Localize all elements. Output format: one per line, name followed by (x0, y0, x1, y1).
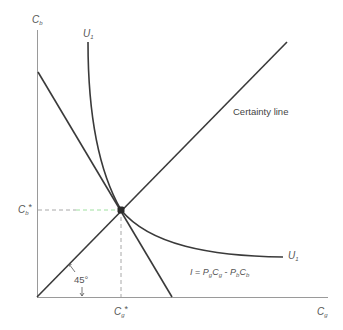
angle-label: 45° (74, 275, 88, 285)
certainty-line (37, 42, 287, 297)
budget-line (38, 72, 172, 297)
y-axis-label: Cb (32, 15, 43, 26)
indifference-curve-u1 (88, 42, 283, 257)
diagram-canvas (0, 0, 343, 330)
angle-arrow-upper (69, 264, 75, 272)
equilibrium-point (118, 207, 125, 214)
budget-equation: I = PgCg - PbCb (190, 268, 249, 278)
certainty-line-label: Certainty line (233, 107, 288, 117)
u1-top-label: U1 (83, 29, 94, 40)
x-axis-label: Cg (317, 307, 328, 318)
cb-star-label: Cb* (18, 203, 32, 216)
u1-right-label: U1 (288, 251, 299, 262)
cg-star-label: Cg* (114, 305, 128, 318)
